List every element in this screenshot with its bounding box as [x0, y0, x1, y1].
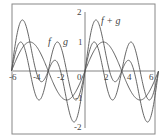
y-tick-m1: -1	[75, 93, 83, 103]
x-tick-p6: 6	[149, 72, 154, 82]
x-tick-0: 0	[77, 72, 82, 82]
x-tick-p4: 4	[127, 72, 132, 82]
y-tick-m2: -2	[74, 122, 82, 132]
function-plot: -6 -4 -2 0 2 4 6 2 1 -1 -2 f g f + g	[0, 0, 162, 140]
label-f: f	[48, 36, 52, 47]
x-tick-m4: -4	[33, 72, 41, 82]
x-tick-p2: 2	[104, 72, 109, 82]
y-tick-p2: 2	[77, 7, 82, 17]
label-f-plus-g: f + g	[101, 15, 121, 26]
label-g: g	[63, 36, 68, 47]
x-tick-m6: -6	[9, 72, 17, 82]
x-tick-m2: -2	[57, 72, 65, 82]
y-tick-p1: 1	[78, 37, 83, 47]
